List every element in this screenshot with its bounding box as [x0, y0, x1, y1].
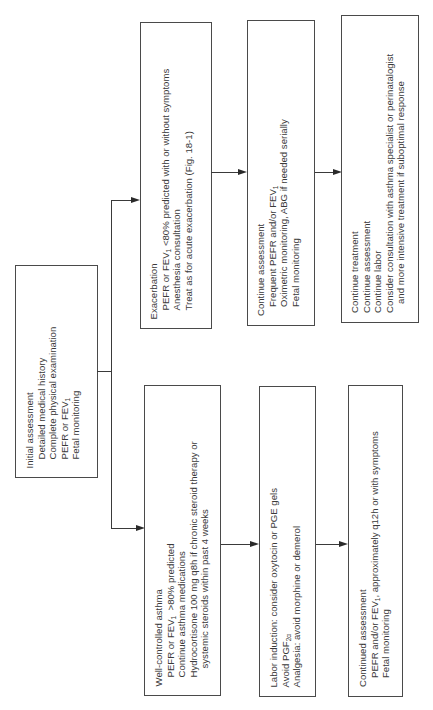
well-controlled-item: systemic steroids within past 4 weeks [198, 395, 210, 686]
continue-treatment-item: Continue labor [372, 25, 384, 313]
continued-assessment-item: PEFR and/or FEV1, approximately q12h or … [368, 395, 380, 687]
continued-assessment-title: Continued assessment [356, 395, 368, 687]
connector [314, 172, 334, 173]
initial-assessment-box: Initial assessment Detailed medical hist… [15, 265, 98, 478]
initial-item: Fetal monitoring [69, 275, 81, 468]
initial-item: PEFR or FEV1 [58, 275, 70, 468]
well-controlled-title: Well-controlled asthma [152, 395, 164, 686]
initial-item: Detailed medical history [35, 275, 47, 468]
continue-treatment-item: Continue treatment [349, 25, 361, 313]
exacerbation-title: Exacerbation [148, 32, 160, 319]
connector [97, 371, 112, 372]
continue-treatment-item: Continue assessment [361, 25, 373, 313]
labor-item: Labor induction: consider oxytocin or PG… [267, 396, 279, 687]
labor-item: Analgesia: avoid morphine or demerol [290, 396, 302, 687]
well-controlled-item: Hydrocortisone 100 mg q8h if chronic ste… [187, 395, 199, 686]
continue-treatment-box: Continue treatment Continue assessment C… [341, 15, 419, 323]
continue-assessment-item: Frequent PEFR and/or FEV1 [267, 30, 279, 316]
well-controlled-item: Continue asthma medications [175, 395, 187, 686]
initial-item: Complete physical examination [46, 275, 58, 468]
continue-assessment-title: Continue assessment [255, 30, 267, 316]
connector [111, 200, 112, 529]
continued-assessment-box: Continued assessment PEFR and/or FEV1, a… [348, 385, 403, 697]
exacerbation-box: Exacerbation PEFR or FEV1 <80% predicted… [140, 22, 212, 329]
continue-assessment-item: Oximetric monitoring, ABG if needed seri… [278, 30, 290, 316]
arrow-icon [250, 541, 259, 547]
connector [211, 172, 239, 173]
exacerbation-item: Anesthesia consultation [171, 32, 183, 319]
continued-assessment-item: Fetal monitoring [379, 395, 391, 687]
arrow-icon [131, 197, 140, 203]
continue-treatment-item: and more intensive treatment if suboptim… [395, 25, 407, 313]
initial-title: Initial assessment [23, 275, 35, 468]
continue-assessment-box: Continue assessment Frequent PEFR and/or… [247, 20, 315, 326]
connector [111, 528, 137, 529]
exacerbation-item: PEFR or FEV1 <80% predicted with or with… [160, 32, 172, 319]
labor-induction-box: Labor induction: consider oxytocin or PG… [259, 386, 316, 697]
labor-item: Avoid PGF2α [279, 396, 291, 687]
arrow-icon [238, 169, 247, 175]
connector [221, 544, 251, 545]
connector [111, 200, 133, 201]
continue-assessment-item: Fetal monitoring [290, 30, 302, 316]
connector [315, 544, 340, 545]
exacerbation-item: Treat as for acute exacerbation (Fig. 18… [183, 32, 195, 319]
continue-treatment-item: Consider consultation with asthma specia… [384, 25, 396, 313]
well-controlled-item: PEFR or FEV1 >80% predicted [164, 395, 176, 686]
arrow-icon [339, 541, 348, 547]
well-controlled-box: Well-controlled asthma PEFR or FEV1 >80%… [144, 385, 221, 696]
